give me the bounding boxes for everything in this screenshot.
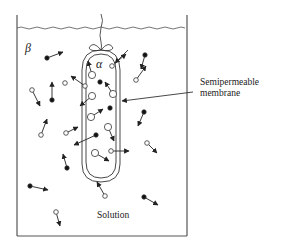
velocity-arrow <box>49 52 63 57</box>
osmosis-diagram: β α Semipermeable membrane Solution <box>0 0 283 240</box>
solvent-particle <box>87 109 103 121</box>
solute-particle <box>138 110 146 126</box>
velocity-arrow <box>146 198 158 205</box>
solute-particle <box>98 80 102 84</box>
velocity-arrow <box>80 98 89 106</box>
velocity-arrow <box>63 154 66 166</box>
velocity-arrow <box>97 182 104 194</box>
velocity-arrow <box>141 57 144 69</box>
solvent-particle <box>71 76 87 88</box>
beta-label: β <box>24 41 31 55</box>
particles-layer <box>28 52 158 226</box>
membrane-label-line2: membrane <box>200 88 240 98</box>
velocity-arrow <box>94 109 103 115</box>
solvent-particle <box>145 141 157 153</box>
solvent-particle <box>88 61 96 79</box>
solvent-particle <box>30 88 40 106</box>
solute-particle <box>45 52 63 60</box>
solute-particle <box>142 195 158 205</box>
solvent-particle <box>63 81 68 86</box>
solvent-particle <box>39 119 47 137</box>
solvent-particle <box>134 66 146 82</box>
string <box>100 14 103 50</box>
velocity-arrow <box>42 119 47 133</box>
membrane-pointer <box>122 92 193 101</box>
solvent-particle <box>97 182 107 198</box>
solution-label: Solution <box>97 210 129 220</box>
velocity-arrow <box>88 61 91 72</box>
solvent-particle <box>104 123 114 141</box>
solvent-particle <box>109 149 129 154</box>
solvent-particle <box>54 210 60 226</box>
alpha-label: α <box>96 57 103 71</box>
solvent-particle <box>91 149 109 161</box>
velocity-arrow <box>68 127 78 132</box>
solvent-particle <box>105 82 117 98</box>
solute-particle <box>141 53 147 69</box>
velocity-arrow <box>109 130 114 141</box>
velocity-arrow <box>57 214 60 226</box>
velocity-arrow <box>74 136 94 145</box>
velocity-arrow <box>98 155 109 161</box>
solute-particle <box>50 82 54 102</box>
velocity-arrow <box>32 186 48 190</box>
velocity-arrow <box>138 114 143 126</box>
velocity-arrow <box>33 92 40 106</box>
velocity-arrow <box>105 82 111 91</box>
velocity-arrow <box>149 145 157 153</box>
solvent-particle <box>110 54 126 68</box>
solute-particle <box>108 106 112 110</box>
velocity-arrow <box>71 76 83 85</box>
solute-particle <box>28 184 48 190</box>
solute-particle <box>63 154 69 170</box>
solvent-particle <box>64 127 78 135</box>
membrane-label-line1: Semipermeable <box>200 77 259 87</box>
